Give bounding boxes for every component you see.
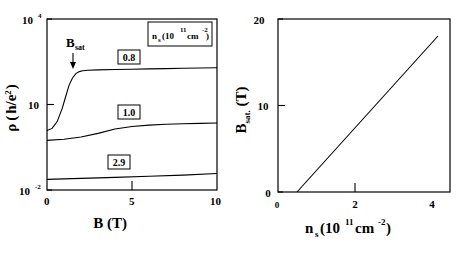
figure-svg: 10 4 10 10 -2 0 5 10 B (T) ρ(h/e2): [0, 0, 466, 255]
svg-text:): ): [206, 31, 209, 41]
svg-text:n: n: [305, 220, 314, 236]
bsat-sub: sat.: [242, 110, 252, 123]
right-ytick-label-10: 10: [258, 100, 270, 112]
bsat-annotation: B sat: [66, 35, 85, 69]
he-unit: h/e: [3, 94, 19, 114]
curve-2-9: [47, 174, 217, 180]
svg-text:10: 10: [22, 14, 34, 26]
paren-open: (: [3, 116, 20, 121]
left-ytick-label-mid: 10: [28, 99, 40, 111]
bsat-unit: (T): [233, 86, 250, 110]
svg-text:11: 11: [345, 217, 354, 227]
right-yaxis-title: Bsat. (T): [233, 86, 252, 133]
svg-text:sat: sat: [75, 43, 85, 52]
svg-text:Bsat. (T): Bsat. (T): [233, 86, 252, 133]
curve-label-2-9: 2.9: [108, 155, 130, 169]
left-ytick-label-top: 10 4: [22, 12, 42, 26]
bsat-vs-ns-line: [297, 36, 438, 192]
figure-container: 10 4 10 10 -2 0 5 10 B (T) ρ(h/e2): [0, 0, 466, 255]
svg-text:-2: -2: [35, 183, 41, 191]
svg-text:B: B: [66, 35, 75, 50]
right-panel: 20 10 0 0 2 4 Bsat. (T) n s (10 11 cm: [233, 14, 450, 239]
left-panel: 10 4 10 10 -2 0 5 10 B (T) ρ(h/e2): [3, 12, 222, 232]
svg-text:1.0: 1.0: [123, 107, 136, 118]
curve-label-0-8: 0.8: [118, 50, 140, 64]
left-xtick-label-0: 0: [44, 195, 50, 207]
curve-0-8: [47, 68, 217, 131]
right-xtick-label-2: 2: [352, 198, 358, 210]
svg-text:cm: cm: [355, 220, 375, 236]
bsat-base: B: [233, 123, 249, 133]
svg-text:(10: (10: [162, 31, 174, 41]
right-xtick-label-4: 4: [429, 198, 435, 210]
svg-text:s: s: [158, 36, 161, 44]
right-xaxis-title: n s (10 11 cm -2 ): [305, 217, 391, 239]
curve-1-0: [47, 123, 217, 140]
svg-text:2.9: 2.9: [113, 157, 126, 168]
svg-text:10: 10: [19, 185, 31, 197]
svg-text:n: n: [152, 31, 157, 41]
svg-text:4: 4: [38, 12, 42, 20]
right-ytick-label-20: 20: [254, 14, 266, 26]
svg-text:0.8: 0.8: [123, 52, 136, 63]
left-xaxis-title: B (T): [93, 215, 127, 232]
svg-text:): ): [386, 220, 391, 237]
svg-text:-2: -2: [378, 217, 386, 227]
left-xtick-label-5: 5: [129, 195, 135, 207]
he-exponent: 2: [3, 90, 13, 95]
left-xtick-label-10: 10: [210, 195, 222, 207]
left-yaxis-title: ρ(h/e2): [3, 84, 20, 132]
rho-symbol: ρ: [3, 124, 19, 132]
paren-close: ): [3, 84, 20, 89]
svg-text:cm: cm: [187, 31, 199, 41]
svg-text:(10: (10: [320, 220, 340, 237]
bsat-arrow-head: [70, 62, 76, 69]
curve-label-1-0: 1.0: [118, 105, 140, 119]
left-ytick-label-bottom: 10 -2: [19, 183, 41, 197]
right-xtick-label-0: 0: [275, 200, 280, 210]
svg-text:s: s: [315, 229, 319, 239]
svg-text:ρ(h/e2): ρ(h/e2): [3, 84, 20, 132]
right-ytick-label-0: 0: [265, 187, 271, 199]
right-plot-frame: [278, 19, 450, 192]
